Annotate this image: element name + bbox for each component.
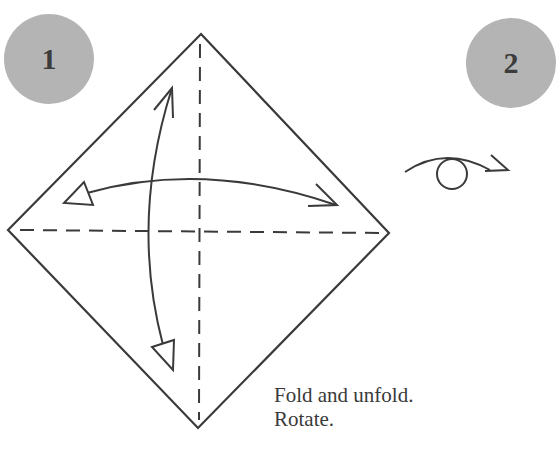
instruction-text: Fold and unfold. Rotate. [274, 383, 413, 431]
turn-over-icon [405, 155, 508, 189]
instruction-line-1: Fold and unfold. [274, 383, 413, 407]
vertical-fold-line [199, 44, 200, 420]
instruction-line-2: Rotate. [274, 407, 413, 431]
fold-unfold-arrow-vertical-icon [148, 88, 174, 370]
